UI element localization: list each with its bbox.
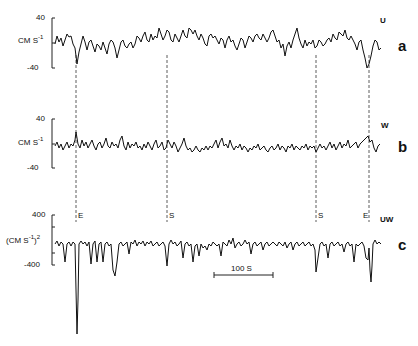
event-marker-e2: E <box>363 211 368 220</box>
trace-uw <box>55 238 381 334</box>
panel-b-letter: b <box>398 138 407 155</box>
axis-b-bottom-tick: -40 <box>27 163 39 172</box>
panel-c-variable: UW <box>380 215 393 224</box>
trace-u <box>55 28 381 68</box>
axis-c <box>52 215 55 265</box>
trace-w <box>55 132 380 152</box>
chart-canvas <box>0 0 418 346</box>
axis-a <box>52 18 55 68</box>
panel-a-variable: U <box>380 16 386 25</box>
event-marker-s2: S <box>318 211 323 220</box>
axis-a-bottom-tick: -40 <box>27 63 39 72</box>
axis-c-top-tick: 400 <box>32 210 45 219</box>
scale-bar-label: 100 S <box>231 264 252 273</box>
panel-b-variable: W <box>381 121 389 130</box>
axis-b-top-tick: 40 <box>36 114 45 123</box>
axis-brackets <box>52 18 55 265</box>
panel-a-letter: a <box>398 37 406 54</box>
panel-c-letter: c <box>398 236 406 253</box>
axis-c-bottom-tick: -400 <box>24 260 40 269</box>
event-marker-s1: S <box>169 211 174 220</box>
axis-a-unit: CM S-1 <box>18 34 43 45</box>
axis-b-unit: CM S-1 <box>18 136 43 147</box>
axis-a-top-tick: 40 <box>36 13 45 22</box>
event-marker-e1: E <box>78 211 83 220</box>
axis-b <box>52 119 55 168</box>
axis-c-unit: (CM S-1)2 <box>6 234 40 245</box>
